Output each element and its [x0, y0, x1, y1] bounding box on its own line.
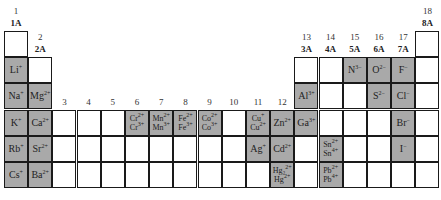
group-number: 8	[173, 97, 197, 107]
group-number: 1	[4, 6, 28, 16]
ion-label: Cd2+	[273, 144, 291, 154]
element-cell	[294, 57, 318, 83]
ion-label: Mn3+	[152, 123, 170, 132]
element-cell	[222, 110, 246, 136]
element-cell	[319, 83, 343, 109]
element-cell: Ag+	[246, 136, 270, 162]
element-cell: Co2+Co3+	[198, 110, 222, 136]
element-cell: Ca2+	[28, 110, 52, 136]
group-header-4: 4	[77, 97, 101, 107]
element-cell	[173, 136, 197, 162]
ion-label: Ga3+	[297, 118, 315, 128]
group-header-2: 22A	[28, 32, 52, 54]
element-cell	[198, 162, 222, 188]
ion-label: Mg2+	[30, 91, 50, 101]
ion-label: Cu2+	[250, 123, 266, 132]
element-cell	[415, 110, 439, 136]
element-cell	[4, 31, 28, 57]
element-cell: Rb+	[4, 136, 28, 162]
group-number: 2	[28, 32, 52, 42]
group-header-16: 166A	[367, 32, 391, 54]
group-number: 17	[391, 32, 415, 42]
group-header-14: 144A	[319, 32, 343, 54]
ion-label: K+	[11, 118, 22, 128]
element-cell	[343, 136, 367, 162]
element-cell	[415, 83, 439, 109]
element-cell	[367, 110, 391, 136]
group-number: 15	[343, 32, 367, 42]
element-cell: Al3+	[294, 83, 318, 109]
ion-label: O2−	[372, 65, 386, 75]
element-cell	[319, 110, 343, 136]
element-cell: Fe2+Fe3+	[173, 110, 197, 136]
ion-label: N3−	[348, 65, 362, 75]
element-cell	[222, 162, 246, 188]
ion-label: Fe3+	[178, 123, 192, 132]
element-cell: Cs+	[4, 162, 28, 188]
group-header-13: 133A	[294, 32, 318, 54]
element-cell: Cl−	[391, 83, 415, 109]
ion-label: Co3+	[202, 123, 218, 132]
ion-label: Ca2+	[31, 118, 49, 128]
group-number: 13	[294, 32, 318, 42]
element-cell: Zn2+	[270, 110, 294, 136]
group-header-9: 9	[198, 97, 222, 107]
element-cell	[52, 162, 76, 188]
element-cell	[415, 162, 439, 188]
ion-label: S2−	[373, 91, 385, 101]
ion-label: Na+	[8, 91, 23, 101]
element-cell: I−	[391, 136, 415, 162]
element-cell	[391, 162, 415, 188]
element-cell	[343, 162, 367, 188]
element-cell: S2−	[367, 83, 391, 109]
group-label: 8A	[415, 18, 439, 28]
group-number: 14	[319, 32, 343, 42]
element-cell	[294, 136, 318, 162]
group-label: 6A	[367, 44, 391, 54]
group-header-5: 5	[101, 97, 125, 107]
element-cell	[77, 136, 101, 162]
element-cell: N3−	[343, 57, 367, 83]
ion-label: Sn4+	[323, 149, 338, 158]
group-number: 9	[198, 97, 222, 107]
element-cell: Br−	[391, 110, 415, 136]
group-number: 11	[246, 97, 270, 107]
element-cell	[101, 110, 125, 136]
group-number: 4	[77, 97, 101, 107]
group-header-18: 188A	[415, 6, 439, 28]
ion-label: Sr2+	[33, 144, 48, 154]
group-number: 18	[415, 6, 439, 16]
element-cell: O2−	[367, 57, 391, 83]
element-cell	[294, 162, 318, 188]
element-cell	[125, 136, 149, 162]
element-cell: Ba2+	[28, 162, 52, 188]
group-number: 12	[270, 97, 294, 107]
element-cell	[222, 136, 246, 162]
group-header-7: 7	[149, 97, 173, 107]
element-cell: Cd2+	[270, 136, 294, 162]
group-header-6: 6	[125, 97, 149, 107]
ion-label: Cl−	[397, 91, 410, 101]
group-header-17: 177A	[391, 32, 415, 54]
group-number: 5	[101, 97, 125, 107]
element-cell	[415, 31, 439, 57]
ion-label: Ba2+	[31, 170, 49, 180]
group-number: 16	[367, 32, 391, 42]
element-cell	[149, 162, 173, 188]
element-cell	[101, 162, 125, 188]
group-label: 2A	[28, 44, 52, 54]
ion-label: Hg2+	[274, 175, 290, 184]
ion-label: Ag+	[250, 144, 266, 154]
group-header-10: 10	[222, 97, 246, 107]
group-header-3: 3	[52, 97, 76, 107]
element-cell: K+	[4, 110, 28, 136]
group-header-8: 8	[173, 97, 197, 107]
element-cell: Sn2+Sn4+	[319, 136, 343, 162]
ion-label: Br−	[396, 118, 409, 128]
element-cell: Li+	[4, 57, 28, 83]
element-cell: Pb2+Pb4+	[319, 162, 343, 188]
ion-label: Cs+	[9, 170, 23, 180]
group-header-1: 11A	[4, 6, 28, 28]
element-cell	[246, 162, 270, 188]
group-label: 4A	[319, 44, 343, 54]
